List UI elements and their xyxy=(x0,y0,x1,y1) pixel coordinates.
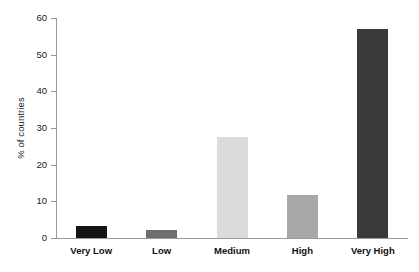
y-axis-tick-mark xyxy=(51,55,56,56)
y-axis-tick-label: 30 xyxy=(7,123,47,133)
y-axis-tick: 60 xyxy=(0,18,56,19)
y-axis-tick-label: 10 xyxy=(7,196,47,206)
y-axis-tick-label: 40 xyxy=(7,86,47,96)
bar xyxy=(357,29,388,238)
y-axis-tick-mark xyxy=(51,165,56,166)
y-axis-tick-mark xyxy=(51,91,56,92)
y-axis-tick: 30 xyxy=(0,128,56,129)
bar xyxy=(76,226,107,238)
y-axis-tick: 50 xyxy=(0,55,56,56)
y-axis-tick: 0 xyxy=(0,238,56,239)
y-axis-tick-mark xyxy=(51,128,56,129)
x-axis-line xyxy=(56,238,408,239)
y-axis-line xyxy=(56,18,57,239)
y-axis-tick-mark xyxy=(51,18,56,19)
y-axis-tick-mark xyxy=(51,201,56,202)
bar xyxy=(287,195,318,238)
x-axis-category-label: Very Low xyxy=(56,245,126,257)
y-axis-tick-label: 50 xyxy=(7,50,47,60)
y-axis-tick-label: 0 xyxy=(7,233,47,243)
y-axis-tick: 20 xyxy=(0,165,56,166)
y-axis-tick-label: 20 xyxy=(7,160,47,170)
y-axis-tick: 10 xyxy=(0,201,56,202)
x-axis-category-label: Medium xyxy=(197,245,267,257)
y-axis-tick: 40 xyxy=(0,91,56,92)
x-axis-category-label: Low xyxy=(126,245,196,257)
x-axis-category-label: High xyxy=(267,245,337,257)
y-axis-tick-label: 60 xyxy=(7,13,47,23)
bar xyxy=(146,230,177,238)
x-axis-category-label: Very High xyxy=(338,245,408,257)
y-axis-tick-mark xyxy=(51,238,56,239)
bar xyxy=(217,137,248,238)
bar-chart: % of countries 0102030405060 Very LowLow… xyxy=(0,0,419,272)
